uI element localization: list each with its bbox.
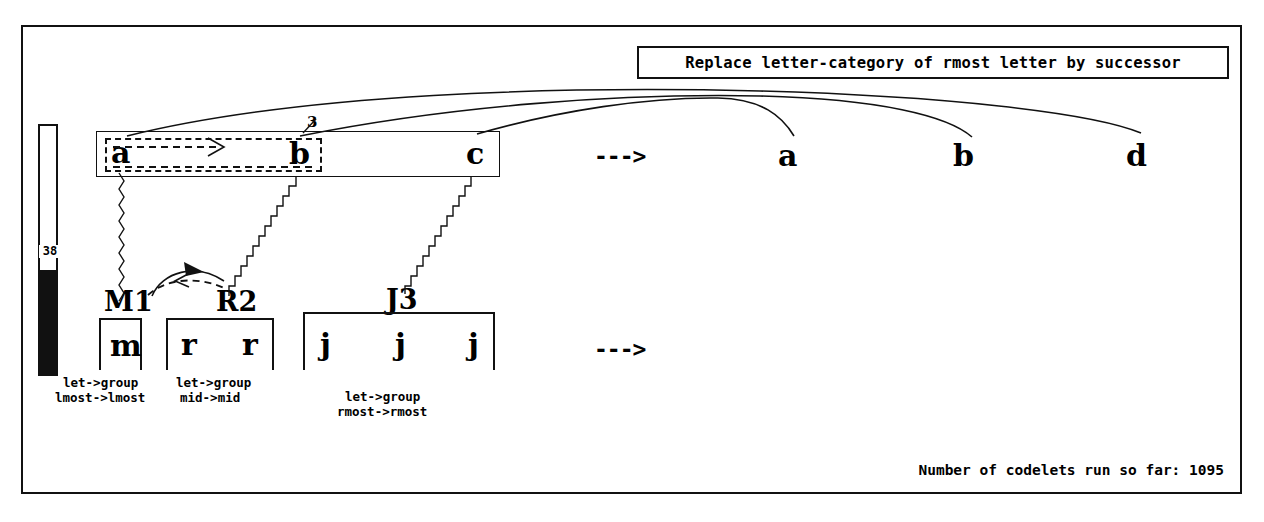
group-j3-desc-line2: rmost->rmost — [337, 405, 427, 419]
group-label-j3[interactable]: J3 — [386, 286, 418, 313]
temperature-value: 38 — [39, 245, 61, 258]
rule-text: Replace letter-category of rmost letter … — [685, 54, 1181, 72]
initial-letter-a[interactable]: a — [111, 138, 130, 168]
bond-strength-label: 3 — [307, 113, 317, 131]
group-r2-letter-0[interactable]: r — [181, 330, 197, 360]
workspace-frame — [21, 25, 1242, 494]
temperature-fill — [40, 270, 56, 374]
group-label-m1[interactable]: M1 — [104, 288, 153, 315]
group-label-r2[interactable]: R2 — [216, 288, 257, 315]
group-m1-desc-line2: lmost->lmost — [55, 391, 145, 405]
group-j3-desc-line1: let->group — [345, 390, 420, 404]
group-m1-desc-line1: let->group — [63, 376, 138, 390]
top-transform-arrow: ---> — [594, 143, 645, 169]
group-j3-letter-2[interactable]: j — [468, 330, 479, 360]
group-j3-letter-1[interactable]: j — [395, 330, 406, 360]
codelet-counter: Number of codelets run so far: 1095 — [918, 462, 1224, 478]
rule-banner: Replace letter-category of rmost letter … — [637, 46, 1229, 79]
initial-letter-c[interactable]: c — [466, 139, 484, 169]
group-r2-desc-line1: let->group — [176, 376, 251, 390]
group-r2-desc-line2: mid->mid — [180, 391, 240, 405]
initial-letter-b[interactable]: b — [289, 139, 310, 169]
target-letter-a[interactable]: a — [778, 141, 797, 171]
group-m1-letter-0[interactable]: m — [110, 331, 142, 361]
group-j3-letter-0[interactable]: j — [320, 330, 331, 360]
copycat-workspace-screen: Replace letter-category of rmost letter … — [0, 0, 1264, 522]
target-letter-d[interactable]: d — [1126, 141, 1147, 171]
target-letter-b[interactable]: b — [953, 141, 974, 171]
bottom-transform-arrow: ---> — [594, 336, 645, 362]
group-r2-letter-1[interactable]: r — [242, 330, 258, 360]
